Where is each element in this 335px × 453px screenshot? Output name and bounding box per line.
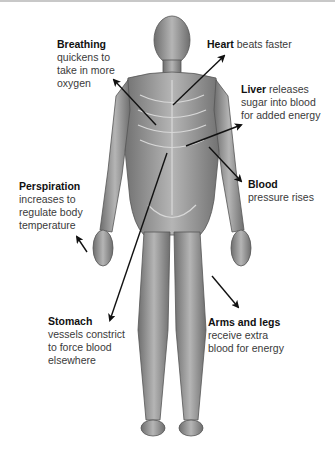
- label-stomach: Stomach vessels constrict to force blood…: [48, 315, 125, 367]
- label-title: Arms and legs: [208, 316, 280, 328]
- arrow-arms-legs: [212, 276, 238, 307]
- body-silhouette: [93, 16, 251, 436]
- label-heart: Heart beats faster: [207, 38, 292, 51]
- label-blood: Blood pressure rises: [248, 178, 314, 204]
- label-line: pressure rises: [248, 191, 314, 203]
- label-perspiration: Perspiration increases to regulate body …: [19, 180, 83, 232]
- label-liver: Liver releases sugar into blood for adde…: [241, 83, 320, 122]
- label-title: Heart: [207, 38, 234, 50]
- label-line: blood for energy: [208, 342, 284, 354]
- label-line: elsewhere: [48, 354, 96, 366]
- label-arms-and-legs: Arms and legs receive extra blood for en…: [208, 316, 284, 355]
- label-line: oxygen: [57, 77, 91, 89]
- label-line: to force blood: [48, 341, 112, 353]
- label-line: temperature: [19, 219, 76, 231]
- label-title: Liver: [241, 83, 266, 95]
- label-line: releases: [269, 83, 309, 95]
- label-title: Blood: [248, 178, 278, 190]
- label-title: Breathing: [57, 38, 106, 50]
- label-line: regulate body: [19, 206, 83, 218]
- label-line: receive extra: [208, 329, 268, 341]
- label-line: increases to: [19, 193, 76, 205]
- label-title: Perspiration: [19, 180, 80, 192]
- label-line: sugar into blood: [241, 96, 316, 108]
- label-line: beats faster: [237, 38, 292, 50]
- label-line: for added energy: [241, 109, 320, 121]
- label-line: vessels constrict: [48, 328, 125, 340]
- arrow-perspiration: [77, 237, 87, 252]
- label-breathing: Breathing quickens to take in more oxyge…: [57, 38, 115, 90]
- label-line: quickens to: [57, 51, 110, 63]
- label-title: Stomach: [48, 315, 92, 327]
- label-line: take in more: [57, 64, 115, 76]
